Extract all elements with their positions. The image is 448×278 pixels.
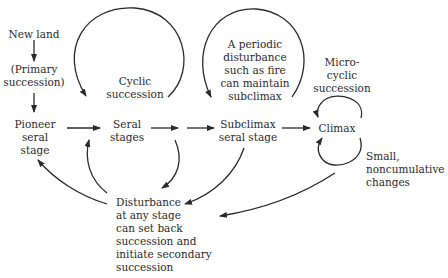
node-small-noncumulative-changes: Small, noncumulative changes	[366, 150, 445, 189]
arrow-climax-to-disturbance	[220, 173, 335, 216]
arrow-seral-to-disturbance	[162, 140, 179, 188]
node-disturbance: Disturbance at any stage can set back su…	[116, 196, 212, 274]
node-pioneer-seral-stage: Pioneer seral stage	[8, 118, 62, 157]
arrow-disturbance-to-seral	[87, 140, 107, 193]
node-new-land: New land	[6, 28, 62, 41]
node-microcyclic-succession: Micro- cyclic succession	[310, 56, 374, 95]
node-primary-succession: (Primary succession)	[2, 63, 66, 89]
node-seral-stages: Seral stages	[104, 118, 150, 144]
arrow-microcyclic-top	[317, 96, 361, 118]
node-climax: Climax	[312, 122, 362, 135]
node-subclimax-seral-stage: Subclimax seral stage	[214, 118, 282, 144]
node-periodic-disturbance: A periodic disturbance such as fire can …	[213, 38, 297, 103]
arrow-small-changes-loop	[318, 138, 361, 165]
node-cyclic-succession: Cyclic succession	[100, 75, 170, 101]
